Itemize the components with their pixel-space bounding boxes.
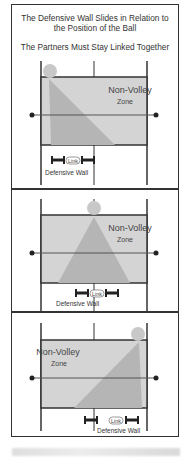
- net-post-left: [30, 251, 35, 256]
- ball-icon: [43, 64, 57, 78]
- net-post-right: [154, 376, 159, 381]
- court-diagram-3: Link Defensive Wall Non-Volley Zone: [12, 313, 180, 437]
- net-post-left: [30, 113, 35, 118]
- player-icon-right: [81, 156, 95, 164]
- defensive-wall-label: Defensive Wall: [97, 427, 141, 434]
- diagram-panel-ball-right: Link Defensive Wall Non-Volley Zone: [11, 313, 179, 437]
- diagram-panel-ball-left: The Defensive Wall Slides in Relation to…: [11, 4, 179, 190]
- ball-icon: [87, 201, 101, 215]
- zone-label-1: Non-Volley: [108, 223, 152, 233]
- zone-label-1: Non-Volley: [108, 85, 152, 95]
- link-label: Link: [92, 291, 102, 297]
- court-diagram-2: Link Defensive Wall Non-Volley Zone: [12, 190, 180, 313]
- player-icon-left: [75, 289, 89, 297]
- player-icon-left: [84, 416, 98, 424]
- net-post-left: [30, 376, 35, 381]
- link-label: Link: [111, 418, 121, 424]
- ball-icon: [131, 327, 145, 341]
- player-icon-left: [51, 156, 65, 164]
- net-post-right: [154, 251, 159, 256]
- figure-caption-blurred: [12, 448, 180, 456]
- link-label: Link: [68, 158, 78, 164]
- defensive-wall-label: Defensive Wall: [56, 300, 100, 307]
- net-post-right: [154, 113, 159, 118]
- defensive-wall-label: Defensive Wall: [45, 169, 89, 176]
- player-icon-right: [105, 289, 119, 297]
- court-diagram-1: Link Defensive Wall Non-Volley Zone: [12, 5, 180, 191]
- zone-label-1: Non-Volley: [36, 347, 80, 357]
- zone-label-2: Zone: [117, 98, 133, 105]
- zone-label-2: Zone: [51, 360, 67, 367]
- player-icon-right: [125, 416, 139, 424]
- diagram-panel-ball-center: Link Defensive Wall Non-Volley Zone: [11, 190, 179, 313]
- zone-label-2: Zone: [117, 236, 133, 243]
